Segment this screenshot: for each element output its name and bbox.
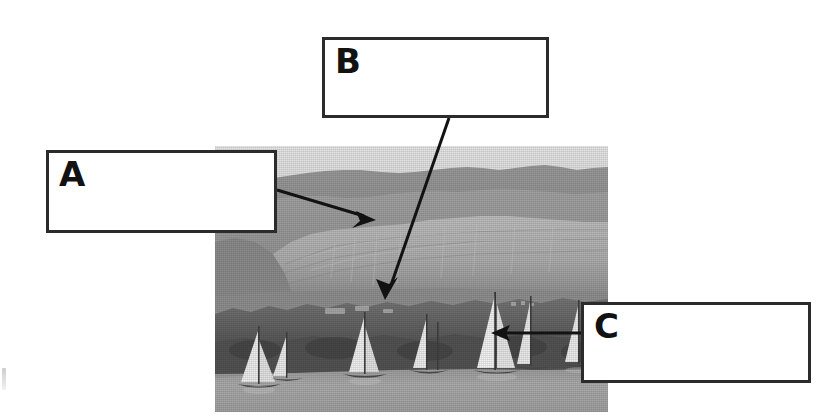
callout-label-a: A (59, 155, 85, 193)
scan-artifact (2, 368, 6, 390)
figure-canvas: A B C (0, 0, 825, 420)
callout-box-b[interactable]: B (322, 37, 549, 118)
callout-label-b: B (335, 42, 361, 80)
callout-box-a[interactable]: A (46, 150, 277, 233)
callout-box-c[interactable]: C (581, 302, 811, 383)
callout-label-c: C (594, 307, 619, 345)
